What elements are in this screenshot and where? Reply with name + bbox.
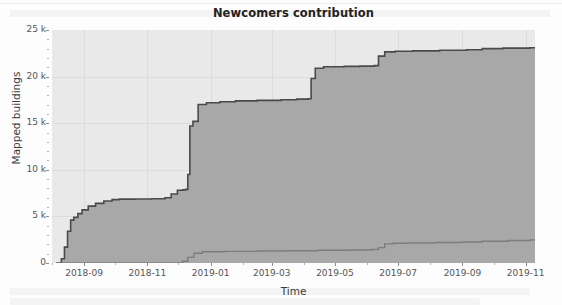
x-tick-mark [398, 263, 399, 266]
y-tick-minor [47, 142, 49, 143]
y-axis-ticks: 05 k10 k15 k20 k25 k [0, 30, 46, 263]
y-tick-mark [46, 123, 49, 124]
chart-title: Newcomers contribution [52, 6, 535, 20]
x-tick-mark [272, 263, 273, 266]
x-tick-mark [462, 263, 463, 266]
x-tick-label: 2019-03 [237, 268, 307, 278]
x-tick-mark [526, 263, 527, 266]
y-tick-minor [47, 226, 49, 227]
x-tick-label: 2018-09 [49, 268, 119, 278]
plot-area [52, 30, 535, 263]
y-tick-minor [47, 235, 49, 236]
y-tick-minor [47, 179, 49, 180]
y-tick-minor [47, 39, 49, 40]
x-tick-mark [147, 263, 148, 266]
x-tick-minor [430, 263, 431, 265]
x-tick-label: 2019-05 [300, 268, 370, 278]
y-tick-mark [46, 263, 49, 264]
y-tick-mark [46, 216, 49, 217]
y-tick-minor [47, 160, 49, 161]
y-tick-minor [47, 105, 49, 106]
x-tick-minor [178, 263, 179, 265]
x-tick-minor [494, 263, 495, 265]
x-tick-mark [211, 263, 212, 266]
x-tick-minor [367, 263, 368, 265]
y-tick-minor [47, 49, 49, 50]
y-tick-minor [47, 151, 49, 152]
y-tick-mark [46, 170, 49, 171]
chart-figure: Newcomers contribution Mapped buildings … [0, 0, 562, 305]
y-tick-label: 25 k [2, 24, 46, 34]
x-tick-label: 2019-11 [491, 268, 561, 278]
x-tick-label: 2019-09 [427, 268, 497, 278]
y-tick-minor [47, 58, 49, 59]
x-tick-minor [115, 263, 116, 265]
y-tick-label: 20 k [2, 71, 46, 81]
y-tick-minor [47, 114, 49, 115]
x-tick-minor [52, 263, 53, 265]
y-tick-minor [47, 244, 49, 245]
y-tick-minor [47, 95, 49, 96]
y-tick-minor [47, 198, 49, 199]
y-tick-mark [46, 30, 49, 31]
area-fill-total [56, 48, 535, 263]
x-tick-label: 2018-11 [112, 268, 182, 278]
y-tick-label: 5 k [2, 210, 46, 220]
x-tick-mark [335, 263, 336, 266]
series-plot [52, 30, 535, 263]
y-tick-label: 0 [2, 257, 46, 267]
x-tick-minor [243, 263, 244, 265]
y-tick-label: 10 k [2, 164, 46, 174]
x-tick-mark [84, 263, 85, 266]
y-tick-minor [47, 188, 49, 189]
x-tick-label: 2019-01 [176, 268, 246, 278]
y-tick-minor [47, 254, 49, 255]
y-tick-label: 15 k [2, 117, 46, 127]
y-tick-minor [47, 133, 49, 134]
y-tick-mark [46, 77, 49, 78]
y-tick-minor [47, 207, 49, 208]
x-axis-ticks: 2018-092018-112019-012019-032019-052019-… [52, 263, 535, 283]
y-tick-minor [47, 67, 49, 68]
x-tick-label: 2019-07 [363, 268, 433, 278]
x-axis-label: Time [52, 285, 535, 297]
y-tick-minor [47, 86, 49, 87]
x-tick-minor [304, 263, 305, 265]
